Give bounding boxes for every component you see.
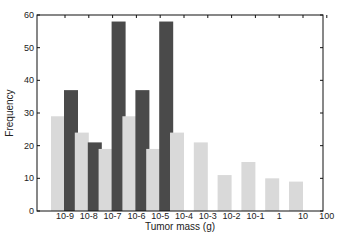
bar-light	[265, 178, 279, 211]
x-tick-label: 10-7	[104, 211, 122, 221]
y-tick-label: 50	[24, 43, 34, 53]
bar-light	[51, 116, 65, 211]
y-tick-label: 30	[24, 108, 34, 118]
bar-light	[289, 182, 303, 211]
bar-light	[146, 149, 160, 211]
bar-light	[122, 116, 136, 211]
x-tick-label: 10-4	[175, 211, 193, 221]
x-tick-label: 1	[277, 211, 282, 221]
y-tick-label: 60	[24, 10, 34, 20]
x-axis-label: Tumor mass (g)	[145, 221, 215, 232]
bar-light	[241, 162, 255, 211]
y-axis-label: Frequency	[4, 89, 15, 136]
y-tick-label: 10	[24, 173, 34, 183]
x-tick-label: 10-5	[151, 211, 169, 221]
bar-light	[75, 133, 89, 211]
x-tick-label: 10-8	[80, 211, 98, 221]
bar-light	[194, 142, 208, 211]
bar-light	[170, 133, 184, 211]
bars	[51, 22, 303, 211]
x-tick-label: 10-1	[246, 211, 264, 221]
y-tick-label: 0	[29, 206, 34, 216]
y-tick-label: 40	[24, 75, 34, 85]
bar-light	[99, 149, 113, 211]
y-tick-label: 20	[24, 141, 34, 151]
bar-chart: 0102030405060 10-910-810-710-610-510-410…	[0, 0, 347, 242]
x-tick-label: 100	[319, 211, 334, 221]
x-tick-label: 10	[298, 211, 308, 221]
x-tick-label: 10-3	[199, 211, 217, 221]
x-tick-label: 10-9	[56, 211, 74, 221]
bar-light	[218, 175, 232, 211]
x-tick-label: 10-2	[223, 211, 241, 221]
x-tick-label: 10-6	[127, 211, 145, 221]
